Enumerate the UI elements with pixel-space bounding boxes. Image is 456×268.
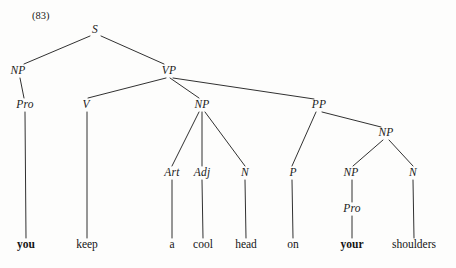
tree-edge-p-to-w_on bbox=[292, 180, 293, 238]
tree-edge-np_pp-to-np_poss bbox=[353, 140, 383, 166]
tree-terminal-w_head: head bbox=[235, 239, 257, 251]
tree-node-pro_subj: Pro bbox=[16, 99, 33, 111]
tree-edge-np_subj-to-pro_subj bbox=[20, 78, 24, 98]
tree-node-np_obj: NP bbox=[194, 99, 209, 111]
tree-edge-vp-to-pp bbox=[173, 78, 314, 99]
tree-node-vp: VP bbox=[162, 65, 176, 77]
tree-edge-s-to-vp bbox=[101, 36, 164, 64]
tree-node-np_subj: NP bbox=[10, 65, 25, 77]
tree-node-pro_poss: Pro bbox=[343, 203, 360, 215]
tree-edge-pp-to-p bbox=[292, 112, 316, 166]
tree-edge-np_pp-to-n_shld bbox=[389, 140, 413, 166]
tree-edge-np_obj-to-n_head bbox=[205, 112, 245, 166]
tree-edge-n_shld-to-w_shoulders bbox=[413, 180, 414, 238]
tree-terminal-w_your: your bbox=[341, 239, 364, 251]
tree-terminal-w_a: a bbox=[169, 239, 174, 251]
tree-terminal-w_shoulders: shoulders bbox=[392, 239, 436, 251]
tree-node-s: S bbox=[92, 24, 98, 36]
tree-node-np_poss: NP bbox=[343, 167, 358, 179]
tree-edge-pp-to-np_pp bbox=[322, 112, 381, 127]
tree-edge-s-to-np_subj bbox=[24, 36, 90, 64]
tree-node-pp: PP bbox=[312, 99, 326, 111]
example-number: (83) bbox=[32, 11, 50, 22]
tree-node-np_pp: NP bbox=[378, 127, 393, 139]
syntax-tree-figure: (83) SNPVPProVNPPPNPArtAdjNPNPNPro youke… bbox=[0, 0, 456, 268]
tree-edge-vp-to-v bbox=[88, 78, 166, 98]
tree-node-v: V bbox=[82, 99, 89, 111]
tree-edge-np_obj-to-art bbox=[172, 112, 199, 166]
tree-terminal-w_you: you bbox=[17, 239, 35, 251]
tree-terminal-w_keep: keep bbox=[76, 239, 98, 251]
tree-edge-pro_subj-to-w_you bbox=[25, 112, 26, 238]
tree-terminal-w_cool: cool bbox=[193, 239, 213, 251]
tree-node-p: P bbox=[289, 167, 296, 179]
tree-terminal-w_on: on bbox=[287, 239, 299, 251]
tree-node-art: Art bbox=[164, 167, 179, 179]
tree-node-n_shld: N bbox=[409, 167, 417, 179]
tree-edge-n_head-to-w_head bbox=[245, 180, 246, 238]
tree-edge-adj-to-w_cool bbox=[202, 180, 203, 238]
tree-node-n_head: N bbox=[241, 167, 249, 179]
tree-node-adj: Adj bbox=[194, 167, 211, 179]
